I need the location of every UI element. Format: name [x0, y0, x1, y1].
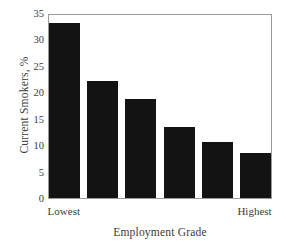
y-tick-label: 35 — [26, 9, 44, 20]
bar-chart-figure: Current Smokers, % 05101520253035 Lowest… — [0, 0, 286, 248]
plot-area — [48, 14, 272, 199]
x-axis-label: Employment Grade — [48, 226, 272, 238]
y-tick-label: 20 — [26, 88, 44, 99]
bar — [87, 81, 118, 198]
x-axis-category-labels: Lowest Highest — [48, 203, 272, 219]
x-axis-label-lowest: Lowest — [48, 203, 80, 219]
x-axis-label-highest: Highest — [237, 203, 271, 219]
bar-series — [49, 15, 271, 198]
y-tick-label: 5 — [26, 168, 44, 179]
bar — [49, 23, 80, 198]
bar — [240, 153, 271, 198]
y-tick-label: 25 — [26, 62, 44, 73]
y-tick-label: 10 — [26, 141, 44, 152]
bar — [125, 99, 156, 198]
bar — [164, 127, 195, 198]
bar — [202, 142, 233, 198]
y-tick-label: 15 — [26, 115, 44, 126]
y-tick-label: 30 — [26, 35, 44, 46]
y-tick-label: 0 — [26, 194, 44, 205]
y-axis-tick-labels: 05101520253035 — [26, 0, 44, 248]
